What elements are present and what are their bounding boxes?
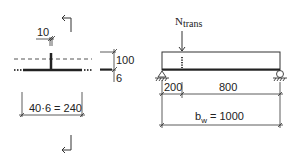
- beam-body: [162, 52, 280, 70]
- rib-height-dimension: [100, 49, 117, 82]
- left-segment-label: 200: [164, 81, 182, 93]
- total-width-dimension: [159, 123, 283, 127]
- right-segment-label: 800: [219, 81, 237, 93]
- plate-thickness-label: 6: [116, 72, 122, 84]
- pin-support-icon: [155, 71, 169, 81]
- section-arrow-top-icon: [62, 15, 71, 32]
- effective-width-label: 40·6 = 240: [29, 102, 82, 114]
- diagram-canvas: 10 100 6 40·6 = 240 Ntrans: [0, 0, 300, 168]
- load-arrow-icon: [179, 31, 185, 51]
- cross-section: 10 100 6 40·6 = 240: [14, 15, 134, 153]
- load-label: Ntrans: [175, 15, 203, 29]
- total-width-label: bw = 1000: [195, 110, 244, 125]
- section-arrow-bottom-icon: [62, 135, 71, 153]
- rib-width-label: 10: [37, 26, 49, 38]
- elevation: Ntrans: [155, 15, 287, 128]
- rib-height-label: 100: [116, 54, 134, 66]
- roller-support-icon: [273, 71, 287, 82]
